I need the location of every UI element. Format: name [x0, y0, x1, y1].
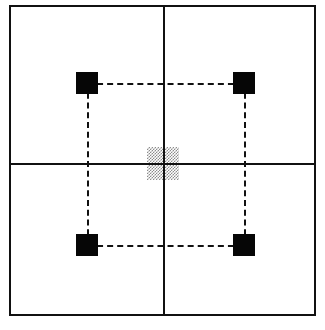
bottom-left-marker: [76, 234, 98, 256]
figure-canvas: [0, 0, 325, 330]
top-left-marker: [76, 72, 98, 94]
top-connector-dashed-line: [87, 83, 244, 85]
top-right-marker: [233, 72, 255, 94]
right-connector-dashed-line: [244, 83, 246, 245]
vertical-axis-overlay-segment: [163, 147, 165, 180]
bottom-connector-dashed-line: [87, 245, 244, 247]
left-connector-dashed-line: [87, 83, 89, 245]
bottom-right-marker: [233, 234, 255, 256]
